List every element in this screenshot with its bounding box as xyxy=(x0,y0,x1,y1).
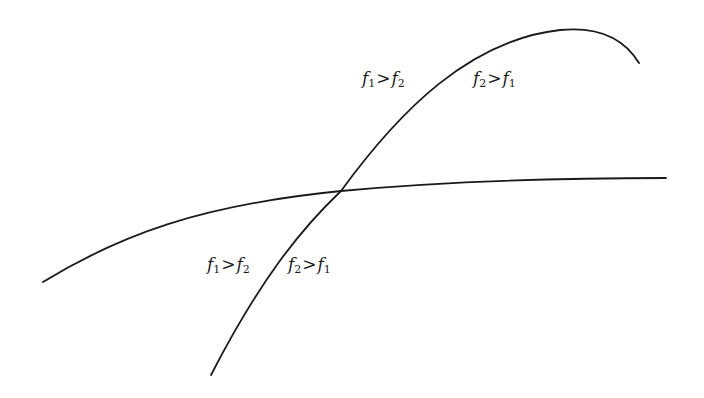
label-rhs-sub: 2 xyxy=(398,77,405,90)
label-lhs-sub: 1 xyxy=(213,263,220,276)
label-operator: > xyxy=(221,254,235,274)
label-operator: > xyxy=(487,68,501,88)
region-label-lower-right: f2>f1 xyxy=(288,256,331,275)
region-label-upper-left: f1>f2 xyxy=(362,70,405,89)
label-operator: > xyxy=(302,254,316,274)
label-rhs-sub: 1 xyxy=(509,77,516,90)
region-label-lower-left: f1>f2 xyxy=(207,256,250,275)
label-rhs-sub: 2 xyxy=(243,263,250,276)
flat-curve xyxy=(43,178,666,282)
label-lhs-sub: 1 xyxy=(368,77,375,90)
label-lhs-sub: 2 xyxy=(294,263,301,276)
label-lhs-sub: 2 xyxy=(479,77,486,90)
label-operator: > xyxy=(376,68,390,88)
region-label-upper-right: f2>f1 xyxy=(473,70,516,89)
diagram-canvas xyxy=(0,0,704,398)
steep-curve xyxy=(211,29,639,375)
label-rhs-sub: 1 xyxy=(324,263,331,276)
